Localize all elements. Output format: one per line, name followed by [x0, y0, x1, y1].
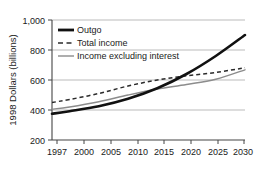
x-tick-label-2005: 2005 — [101, 147, 121, 157]
legend-label-income-excluding-interest: Income excluding interest — [77, 51, 180, 61]
y-tick-label-200: 200 — [30, 136, 45, 146]
chart-container: 1,000 800 600 400 200 1997 2000 2005 201… — [0, 0, 254, 174]
x-tick-label-2000: 2000 — [74, 147, 94, 157]
y-axis-tick-labels: 1,000 800 600 400 200 — [22, 16, 45, 146]
y-axis-ticks — [48, 20, 52, 140]
x-axis-tick-labels: 1997 2000 2005 2010 2015 2020 2025 2030 — [47, 147, 253, 157]
legend-label-outgo: Outgo — [77, 25, 102, 35]
y-tick-label-400: 400 — [30, 106, 45, 116]
x-tick-label-2020: 2020 — [181, 147, 201, 157]
line-chart: 1,000 800 600 400 200 1997 2000 2005 201… — [0, 0, 254, 174]
y-tick-label-1000: 1,000 — [22, 16, 45, 26]
x-tick-label-2010: 2010 — [128, 147, 148, 157]
y-axis-title: 1998 Dollars (billions) — [7, 34, 18, 125]
x-tick-label-1997: 1997 — [47, 147, 67, 157]
x-tick-label-2030: 2030 — [233, 147, 253, 157]
x-axis-ticks — [57, 140, 244, 144]
legend-label-total-income: Total income — [77, 38, 128, 48]
x-tick-label-2025: 2025 — [208, 147, 228, 157]
y-tick-label-600: 600 — [30, 76, 45, 86]
x-tick-label-2015: 2015 — [154, 147, 174, 157]
y-tick-label-800: 800 — [30, 46, 45, 56]
